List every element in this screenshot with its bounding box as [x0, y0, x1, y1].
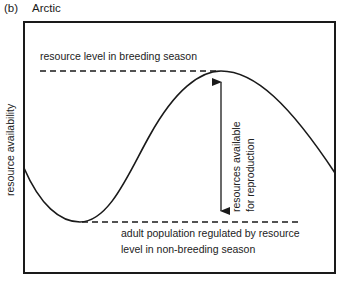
- diagram: resource level in breeding season resour…: [0, 0, 342, 282]
- arrow-label-line2: for reproduction: [244, 138, 256, 212]
- non-breeding-label-line2: level in non-breeding season: [121, 243, 255, 255]
- y-axis-label: resource availability: [4, 103, 16, 196]
- arrow-label-line1: resources available: [230, 121, 242, 212]
- non-breeding-label-line1: adult population regulated by resource: [121, 227, 300, 239]
- breeding-season-label: resource level in breeding season: [40, 50, 197, 62]
- resource-curve: [24, 71, 335, 222]
